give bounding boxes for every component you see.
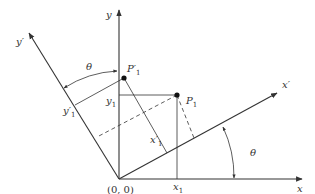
theta-label-right: θ — [250, 147, 256, 158]
p-prime-1-label: P′1 — [126, 63, 140, 77]
svg-text:y1: y1 — [105, 95, 116, 109]
theta-arc-right — [223, 127, 234, 178]
point-p1 — [174, 92, 179, 97]
rotation-diagram: x y x′ y′ (0, 0) θ θ P1 P′1 x1 y1 x′1 y′… — [0, 0, 315, 194]
x-prime-1-label: x′1 — [150, 134, 162, 148]
origin-label: (0, 0) — [107, 184, 134, 194]
svg-text:x′1: x′1 — [150, 134, 162, 148]
y-prime-axis-label: y′ — [15, 36, 25, 47]
p-prime-1-to-y-prime-line — [75, 78, 124, 105]
p1-label: P1 — [185, 95, 197, 109]
svg-text:x1: x1 — [173, 181, 183, 194]
svg-text:P1: P1 — [185, 95, 197, 109]
theta-label-top: θ — [86, 61, 92, 72]
svg-text:y′1: y′1 — [62, 105, 75, 119]
y-prime-axis — [29, 33, 119, 179]
y-axis-label: y — [105, 9, 112, 20]
x-prime-axis-label: x′ — [282, 79, 291, 90]
y-prime-1-label: y′1 — [62, 105, 75, 119]
x1-label: x1 — [173, 181, 183, 194]
x-prime-axis — [119, 93, 277, 179]
y1-label: y1 — [105, 95, 116, 109]
x-axis-label: x — [297, 183, 303, 194]
theta-arc-top — [64, 71, 117, 88]
svg-text:P′1: P′1 — [126, 63, 140, 77]
point-p-prime-1 — [121, 75, 126, 80]
